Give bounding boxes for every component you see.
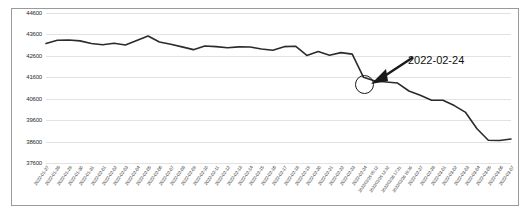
y-axis-tick-label: 37600 [26, 160, 42, 166]
y-axis-tick-label: 40600 [26, 96, 42, 102]
y-axis-tick-label: 42600 [26, 53, 42, 59]
y-axis-tick-label: 44600 [26, 10, 42, 16]
gridline: 37600 [46, 163, 511, 164]
x-axis-tick-labels: 2022-01-272022-01-282022-01-292022-01-30… [46, 165, 511, 207]
y-axis-tick-label: 43600 [26, 31, 42, 37]
plot-area: 4460043600426004160040600396003860037600 [46, 13, 511, 163]
data-series-line [46, 13, 511, 163]
y-axis-tick-label: 41600 [26, 74, 42, 80]
y-axis-tick-label: 38600 [26, 139, 42, 145]
annotation-label: 2022-02-24 [408, 54, 464, 66]
y-axis-tick-label: 39600 [26, 117, 42, 123]
line-chart: 4460043600426004160040600396003860037600… [0, 0, 531, 222]
